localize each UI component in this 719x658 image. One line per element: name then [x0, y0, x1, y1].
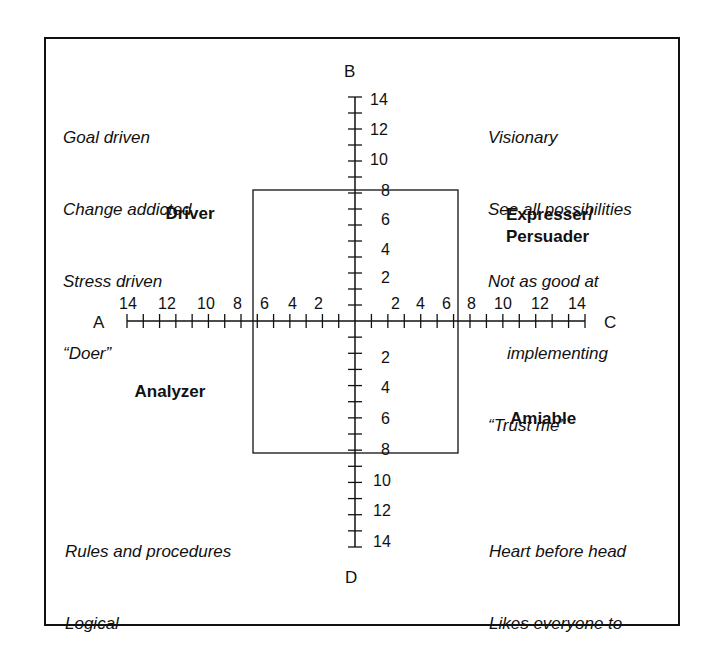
tick-label: 2: [314, 296, 323, 312]
trait: “Doer”: [63, 342, 192, 366]
trait: Not as good at: [488, 270, 632, 294]
tick-label: 10: [373, 473, 391, 489]
quadrant-label-analyzer: Analyzer: [120, 381, 220, 403]
tick-label: 8: [467, 296, 476, 312]
tick-label: 2: [391, 296, 400, 312]
tick-label: 6: [381, 212, 390, 228]
tick-label: 8: [381, 442, 390, 458]
tick-label: 4: [381, 380, 390, 396]
tick-label: 6: [442, 296, 451, 312]
trait: Heart before head: [489, 540, 626, 564]
tick-label: 14: [370, 92, 388, 108]
quadrant-label-expresser: Expresser/ Persuader: [506, 204, 616, 248]
trait: Goal driven: [63, 126, 192, 150]
tick-label: 4: [416, 296, 425, 312]
tick-label: 6: [381, 411, 390, 427]
trait: Visionary: [488, 126, 632, 150]
axis-label-b: B: [344, 63, 355, 81]
tick-label: 14: [373, 534, 391, 550]
tick-label: 4: [288, 296, 297, 312]
trait: implementing: [488, 342, 632, 366]
tick-label: 12: [370, 122, 388, 138]
tick-label: 8: [381, 183, 390, 199]
quadrant-label-amiable: Amiable: [510, 408, 590, 430]
quadrant-label-driver: Driver: [150, 203, 230, 225]
label-line: Persuader: [506, 226, 616, 248]
axis-label-d: D: [345, 569, 357, 587]
tick-label: 2: [381, 270, 390, 286]
analyzer-traits: Rules and procedures Logical They are th…: [65, 492, 252, 658]
amiable-traits: Heart before head Likes everyone to be h…: [489, 492, 626, 658]
driver-traits: Goal driven Change addicted Stress drive…: [63, 78, 192, 390]
trait: Rules and procedures: [65, 540, 252, 564]
tick-label: 4: [381, 242, 390, 258]
tick-label: 10: [370, 152, 388, 168]
tick-label: 12: [373, 503, 391, 519]
trait: Logical: [65, 612, 252, 636]
trait: Likes everyone to: [489, 612, 626, 636]
tick-label: 6: [260, 296, 269, 312]
label-line: Expresser/: [506, 204, 616, 226]
expresser-traits: Visionary See all possibilities Not as g…: [488, 78, 632, 462]
tick-label: 10: [197, 296, 215, 312]
tick-label: 2: [381, 350, 390, 366]
tick-label: 8: [233, 296, 242, 312]
trait: Stress driven: [63, 270, 192, 294]
